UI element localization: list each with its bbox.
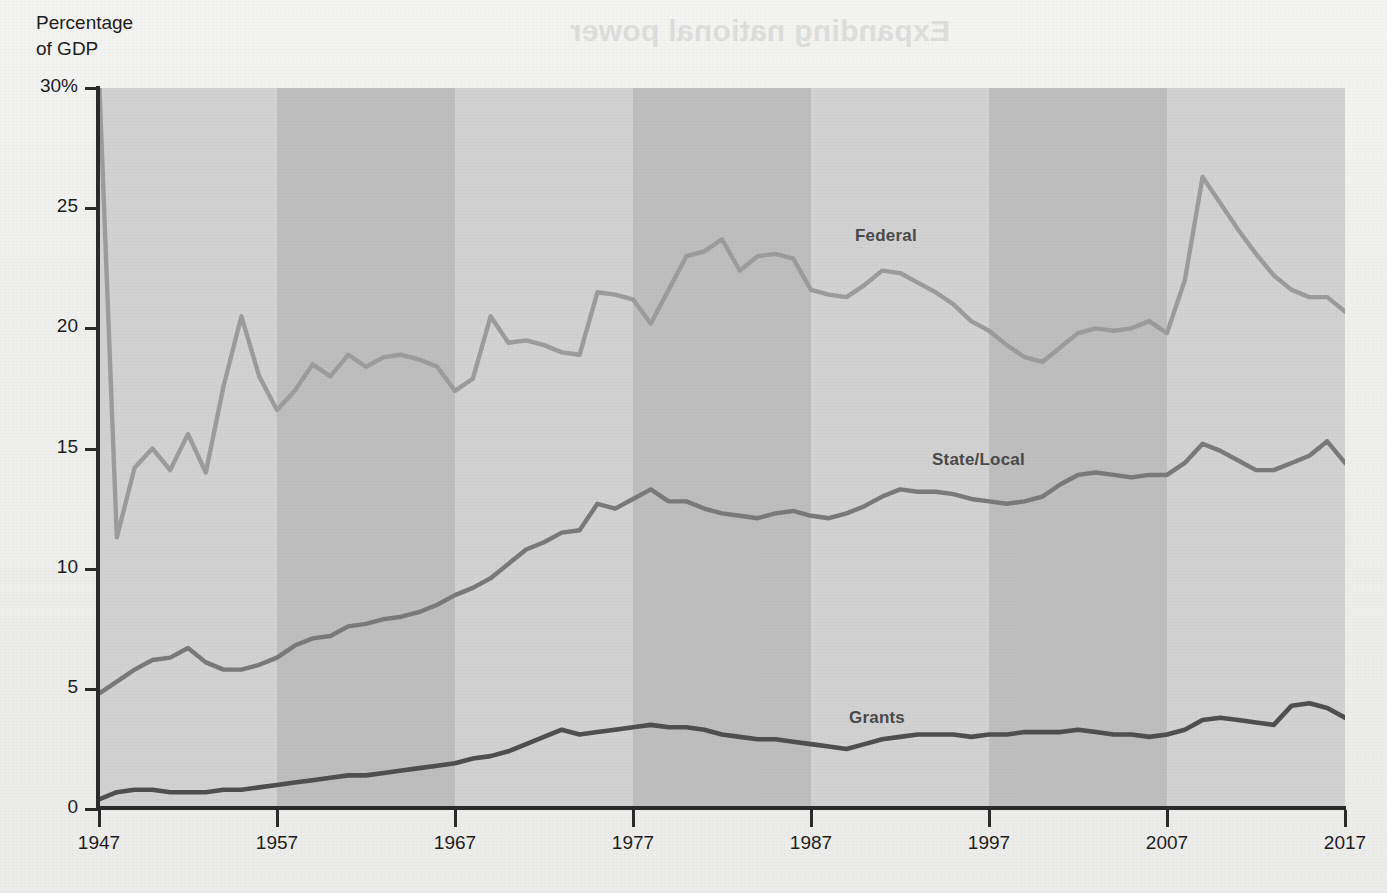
x-tick (810, 810, 813, 827)
y-tick-label: 25 (8, 195, 78, 217)
x-tick (1166, 810, 1169, 827)
y-tick (85, 688, 96, 691)
series-line-grants (99, 703, 1345, 799)
y-tick (85, 568, 96, 571)
showthrough-title: Expanding national power (430, 14, 950, 56)
x-tick (454, 810, 457, 827)
series-label-state-local: State/Local (932, 450, 1025, 470)
x-tick (276, 810, 279, 827)
y-tick-label: 10 (8, 556, 78, 578)
chart-lines (99, 88, 1345, 809)
y-tick (85, 207, 96, 210)
y-tick (85, 448, 96, 451)
x-tick-label: 1997 (944, 832, 1034, 854)
series-line-federal (99, 88, 1345, 537)
chart-plot-area (99, 88, 1345, 809)
x-tick-label: 1947 (54, 832, 144, 854)
y-tick-label: 30% (8, 75, 78, 97)
x-tick-label: 2017 (1300, 832, 1387, 854)
series-label-federal: Federal (855, 226, 917, 246)
x-tick-label: 1977 (588, 832, 678, 854)
y-tick-label: 5 (8, 676, 78, 698)
y-axis-line (96, 86, 100, 811)
series-line-state-local (99, 441, 1345, 693)
y-tick (85, 87, 96, 90)
series-label-grants: Grants (849, 708, 905, 728)
x-tick (98, 810, 101, 827)
x-tick-label: 1987 (766, 832, 856, 854)
x-tick (1344, 810, 1347, 827)
x-axis-line (96, 806, 1346, 810)
x-tick (988, 810, 991, 827)
x-tick-label: 2007 (1122, 832, 1212, 854)
y-tick-label: 0 (8, 796, 78, 818)
y-tick (85, 808, 96, 811)
y-tick-label: 20 (8, 315, 78, 337)
y-axis-title: Percentage of GDP (36, 10, 133, 62)
x-tick (632, 810, 635, 827)
x-tick-label: 1957 (232, 832, 322, 854)
y-tick-label: 15 (8, 436, 78, 458)
y-tick (85, 327, 96, 330)
x-tick-label: 1967 (410, 832, 500, 854)
